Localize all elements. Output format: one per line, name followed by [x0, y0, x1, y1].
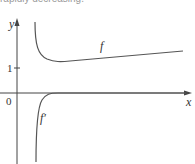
- curve-f: [35, 22, 183, 62]
- graph: [0, 0, 195, 164]
- curve-f-label: f: [100, 40, 103, 52]
- y-axis-arrow-icon: [15, 18, 20, 26]
- curve-f-prime-label: f′: [40, 112, 46, 124]
- y-axis-label: y: [9, 18, 14, 30]
- origin-label: 0: [6, 96, 12, 107]
- x-axis-label: x: [186, 96, 191, 108]
- y-tick-label: 1: [7, 63, 13, 74]
- curve-f-prime: [36, 93, 186, 162]
